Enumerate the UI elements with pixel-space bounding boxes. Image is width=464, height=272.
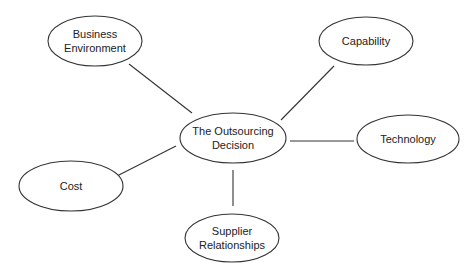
- node-label: Business: [73, 28, 118, 40]
- node-label: Cost: [60, 180, 83, 192]
- edge-cost-to-outsourcing-decision: [115, 146, 176, 177]
- node-label: Technology: [380, 133, 436, 145]
- node-label: Relationships: [199, 239, 266, 251]
- node-label: Decision: [212, 139, 254, 151]
- ellipse-business-environment: [48, 16, 142, 66]
- node-label: The Outsourcing: [192, 125, 273, 137]
- node-outsourcing-decision: The OutsourcingDecision: [180, 113, 286, 163]
- ellipse-supplier-relationships: [185, 214, 279, 262]
- node-capability: Capability: [319, 17, 413, 65]
- node-supplier-relationships: SupplierRelationships: [185, 214, 279, 262]
- edge-capability-to-outsourcing-decision: [281, 66, 334, 120]
- node-label: Environment: [64, 42, 126, 54]
- node-label: Capability: [342, 35, 391, 47]
- diagram-nodes: The OutsourcingDecisionBusinessEnvironme…: [19, 16, 459, 262]
- node-cost: Cost: [19, 161, 123, 211]
- edge-business-environment-to-outsourcing-decision: [129, 64, 192, 113]
- outsourcing-decision-diagram: The OutsourcingDecisionBusinessEnvironme…: [0, 0, 464, 272]
- node-technology: Technology: [357, 115, 459, 163]
- node-business-environment: BusinessEnvironment: [48, 16, 142, 66]
- center-ellipse-outsourcing-decision: [180, 113, 286, 163]
- node-label: Supplier: [212, 225, 253, 237]
